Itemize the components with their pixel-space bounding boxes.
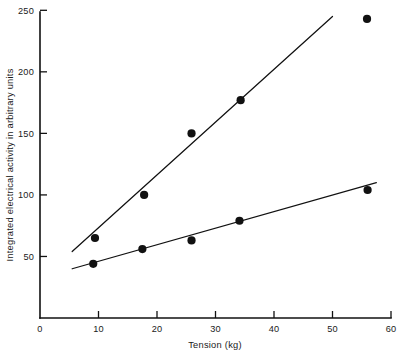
data-point-lower <box>89 260 97 268</box>
fit-line-upper <box>72 16 332 251</box>
x-tick-label: 0 <box>37 324 42 334</box>
x-tick-label: 20 <box>152 324 163 334</box>
data-point-lower <box>138 245 146 253</box>
x-tick-label: 60 <box>386 324 397 334</box>
data-point-upper <box>363 15 371 23</box>
data-point-upper <box>140 191 148 199</box>
x-tick-label: 10 <box>93 324 104 334</box>
data-point-upper <box>187 129 195 137</box>
data-point-lower <box>235 217 243 225</box>
data-point-upper <box>237 96 245 104</box>
y-tick-label: 100 <box>18 190 34 200</box>
x-tick-label: 30 <box>210 324 221 334</box>
y-tick-label: 50 <box>23 252 34 262</box>
data-point-lower <box>187 236 195 244</box>
x-axis-title: Tension (kg) <box>188 340 242 350</box>
y-tick-group: 50100150200250 <box>18 6 47 262</box>
y-tick-label: 150 <box>18 129 34 139</box>
x-tick-label: 40 <box>269 324 280 334</box>
data-point-lower <box>364 186 372 194</box>
y-tick-label: 200 <box>18 67 34 77</box>
chart-figure: 50100150200250 0102030405060 Tension (kg… <box>0 0 409 352</box>
fit-line-group <box>72 16 376 268</box>
fit-line-lower <box>72 183 376 269</box>
data-point-upper <box>91 234 99 242</box>
x-tick-label: 50 <box>327 324 338 334</box>
y-tick-label: 250 <box>18 6 34 16</box>
y-axis-title: Integrated electrical activity in arbitr… <box>5 68 15 261</box>
x-tick-group: 0102030405060 <box>37 311 396 334</box>
data-point-group <box>89 15 372 268</box>
scatter-plot-svg: 50100150200250 0102030405060 Tension (kg… <box>0 0 409 352</box>
